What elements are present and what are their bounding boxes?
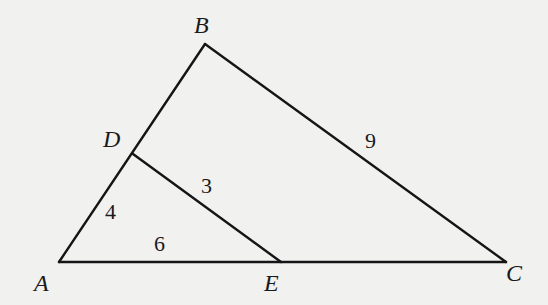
- length-label-ae: 6: [154, 231, 165, 256]
- triangle-figure: B D A E C 9 3 4 6: [0, 0, 548, 305]
- length-label-ad: 4: [105, 199, 116, 224]
- triangle-diagram: B D A E C 9 3 4 6: [0, 0, 548, 305]
- vertex-label-c: C: [506, 260, 523, 286]
- vertex-label-d: D: [102, 126, 120, 152]
- vertex-label-b: B: [194, 12, 209, 38]
- length-label-de: 3: [201, 173, 212, 198]
- vertex-label-e: E: [263, 270, 279, 296]
- vertex-label-a: A: [32, 270, 49, 296]
- segment-bc: [205, 44, 506, 262]
- length-label-bc: 9: [365, 128, 376, 153]
- segment-ab: [59, 44, 205, 262]
